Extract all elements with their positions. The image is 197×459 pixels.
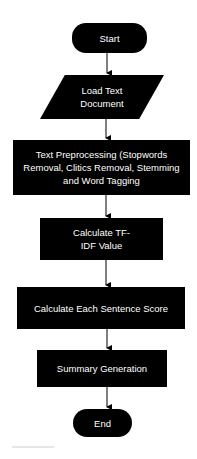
start-node: Start bbox=[72, 23, 147, 53]
preprocess-node: Text Preprocessing (Stopwords Removal, C… bbox=[13, 140, 190, 195]
sentence-score-label: Calculate Each Sentence Score bbox=[34, 302, 168, 315]
preprocess-label: Text Preprocessing (Stopwords Removal, C… bbox=[19, 148, 184, 187]
faint-artifact bbox=[12, 446, 54, 448]
end-label: End bbox=[94, 417, 111, 430]
start-label: Start bbox=[99, 32, 119, 45]
tfidf-label: Calculate TF-IDF Value bbox=[68, 226, 135, 252]
tfidf-node: Calculate TF-IDF Value bbox=[40, 218, 163, 260]
end-node: End bbox=[73, 409, 132, 437]
summary-node: Summary Generation bbox=[37, 350, 167, 387]
sentence-score-node: Calculate Each Sentence Score bbox=[17, 287, 185, 329]
load-document-node: Load Text Document bbox=[40, 75, 164, 119]
load-document-label: Load Text Document bbox=[72, 84, 132, 110]
summary-label: Summary Generation bbox=[57, 362, 147, 375]
